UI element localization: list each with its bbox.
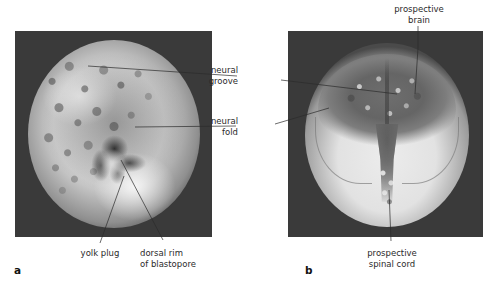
label-prospective-brain: prospective brain: [382, 4, 456, 25]
panel-a-inner: [15, 31, 212, 237]
label-yolk-plug: yolk plug: [63, 248, 137, 259]
panel-letter-b: b: [305, 264, 313, 276]
label-dorsal-rim-of-blastopore: dorsal rim of blastopore: [140, 248, 196, 269]
label-neural-groove: neural groove: [190, 65, 238, 86]
panel-b-inner: [288, 31, 483, 237]
label-prospective-brain-line1: prospective: [382, 4, 456, 15]
label-dorsal-rim-line1: dorsal rim: [140, 248, 196, 259]
panel-letter-a: a: [14, 264, 21, 276]
label-neural-groove-line1: neural: [190, 65, 238, 76]
label-prospective-spinal-cord-line2: spinal cord: [353, 259, 431, 270]
embryo-b-cord-speckles: [367, 164, 406, 208]
embryo-a-sphere: [28, 40, 200, 228]
embryo-a-yolk-plug: [97, 149, 126, 179]
embryo-b-sphere: [305, 43, 469, 227]
label-neural-fold-line1: neural: [190, 116, 238, 127]
label-neural-fold: neural fold: [190, 116, 238, 137]
panel-b-photograph: [288, 31, 483, 237]
label-yolk-plug-line1: yolk plug: [63, 248, 137, 259]
label-prospective-spinal-cord: prospective spinal cord: [353, 248, 431, 269]
label-dorsal-rim-line2: of blastopore: [140, 259, 196, 270]
label-prospective-brain-line2: brain: [382, 15, 456, 26]
label-prospective-spinal-cord-line1: prospective: [353, 248, 431, 259]
label-neural-groove-line2: groove: [190, 76, 238, 87]
label-neural-fold-line2: fold: [190, 127, 238, 138]
figure-neurulation-stages: neural groove neural fold yolk plug dors…: [0, 0, 499, 289]
panel-a-photograph: [15, 31, 212, 237]
